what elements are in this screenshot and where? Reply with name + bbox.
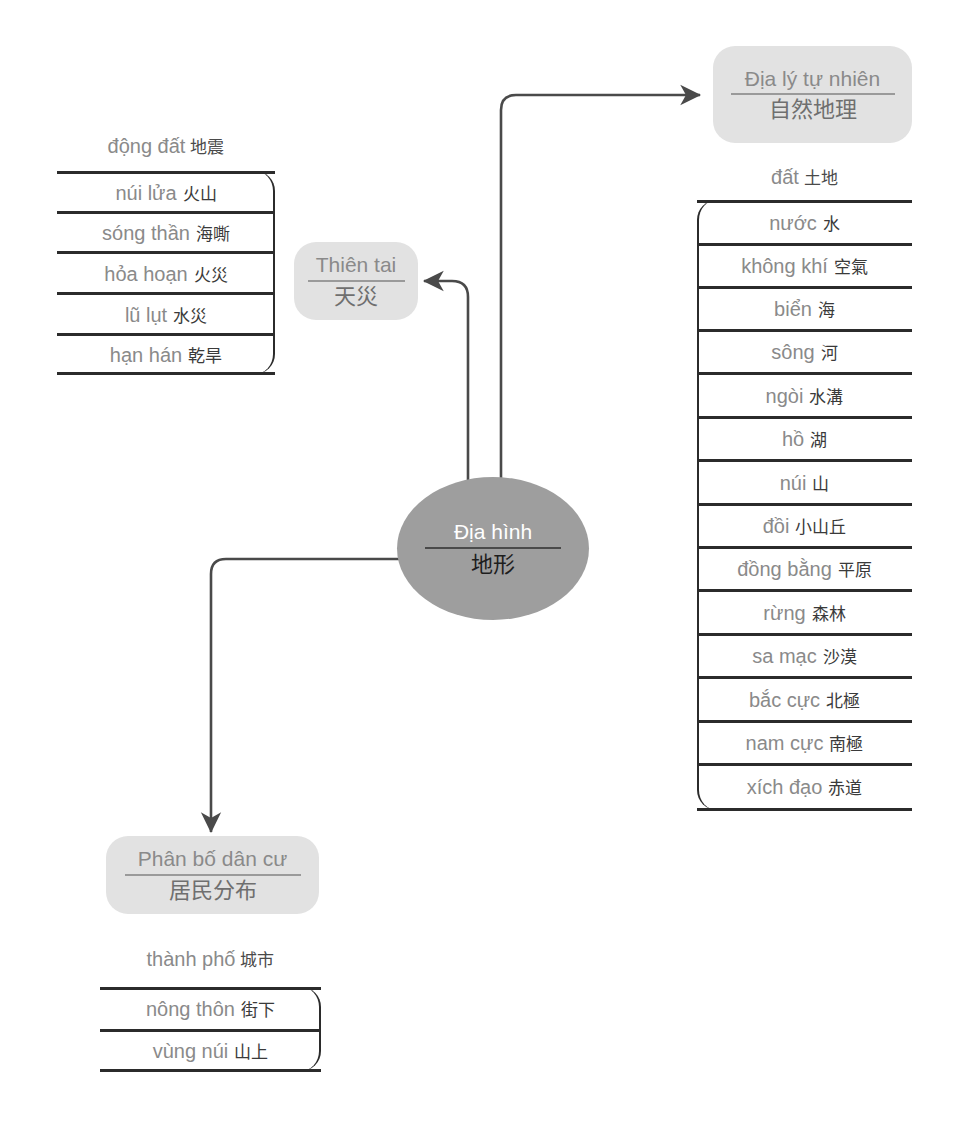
list-item-vi: bắc cực [749, 689, 820, 711]
list-item: nông thôn街下 [100, 996, 321, 1021]
list-item-zh: 河 [821, 343, 838, 363]
center-node-dia-hinh[interactable]: Địa hình 地形 [397, 477, 589, 620]
list-item-zh: 街下 [241, 1000, 275, 1020]
list-item-zh: 水溝 [809, 387, 843, 407]
list-item-vi: sóng thần [102, 222, 190, 244]
list-item: xích đạo赤道 [697, 774, 912, 799]
list-item: biển海 [697, 296, 912, 321]
list-item-vi: nước [769, 212, 817, 234]
node-thien-tai[interactable]: Thiên tai 天災 [294, 242, 418, 320]
connector-to-disaster [424, 281, 468, 481]
list-item: vùng núi山上 [100, 1038, 321, 1063]
center-node-zh-label: 地形 [471, 552, 515, 577]
list-item: không khí空氣 [697, 253, 912, 278]
list-item: ngòi水溝 [697, 383, 912, 408]
row-divider [697, 720, 912, 723]
node-disaster-zh-label: 天災 [334, 284, 378, 309]
node-dia-ly-tu-nhien[interactable]: Địa lý tự nhiên 自然地理 [713, 46, 912, 143]
node-nature-divider [731, 93, 895, 95]
list-item-zh: 乾旱 [188, 346, 222, 366]
list-item-vi: đồng bằng [737, 558, 832, 580]
list-item-vi: hỏa hoạn [104, 263, 187, 285]
row-divider [697, 372, 912, 375]
list-item-vi: sông [771, 341, 814, 363]
center-node-vi-label: Địa hình [454, 520, 532, 543]
list-item-zh: 水 [823, 214, 840, 234]
list-item: sa mạc沙漠 [697, 643, 912, 668]
list-item-zh: 北極 [826, 691, 860, 711]
list-item-zh: 水災 [173, 306, 207, 326]
row-divider [100, 1069, 321, 1072]
row-divider [57, 333, 275, 336]
node-nature-vi-label: Địa lý tự nhiên [741, 67, 884, 91]
list-item-zh: 沙漠 [823, 647, 857, 667]
list-item: đồi小山丘 [697, 513, 912, 538]
row-divider [697, 459, 912, 462]
node-population-vi-label: Phân bố dân cư [134, 847, 292, 871]
list-item-vi: biển [774, 298, 812, 320]
list-item-vi: đồi [763, 515, 790, 537]
list-item-zh: 山 [812, 474, 829, 494]
list-item-vi: hạn hán [110, 344, 182, 366]
row-divider [697, 763, 912, 766]
row-divider [57, 171, 275, 174]
list-head-nature-vi: đất [771, 166, 799, 188]
list-item-vi: ngòi [766, 385, 804, 407]
list-head-nature-zh: 土地 [804, 168, 838, 188]
list-item-vi: nông thôn [146, 998, 235, 1020]
row-divider [697, 808, 912, 811]
list-item: nước水 [697, 210, 912, 235]
list-item-vi: hồ [782, 428, 804, 450]
list-item-zh: 海嘶 [196, 224, 230, 244]
list-item-zh: 森林 [812, 604, 846, 624]
list-head-disaster-vi: động đất [108, 135, 186, 157]
list-item: núi山 [697, 470, 912, 495]
row-divider [697, 633, 912, 636]
node-disaster-vi-label: Thiên tai [312, 253, 401, 277]
list-head-nature: đất土地 [697, 164, 912, 189]
row-divider [697, 589, 912, 592]
list-head-disaster: động đất地震 [57, 133, 275, 158]
list-item-zh: 湖 [810, 430, 827, 450]
list-item: nam cực南極 [697, 730, 912, 755]
list-item: hỏa hoạn火災 [57, 261, 275, 286]
list-item-zh: 山上 [234, 1042, 268, 1062]
list-item: lũ lụt水災 [57, 302, 275, 327]
list-item-vi: xích đạo [747, 776, 823, 798]
row-divider [57, 372, 275, 375]
list-item-vi: sa mạc [752, 645, 816, 667]
list-item: hồ湖 [697, 426, 912, 451]
node-disaster-divider [308, 280, 405, 282]
list-item-zh: 南極 [829, 734, 863, 754]
list-item-zh: 火山 [183, 184, 217, 204]
row-divider [697, 286, 912, 289]
list-item: hạn hán乾旱 [57, 342, 275, 367]
row-divider [697, 546, 912, 549]
list-item-zh: 平原 [838, 560, 872, 580]
list-item-zh: 空氣 [834, 257, 868, 277]
list-item: núi lửa火山 [57, 180, 275, 205]
mindmap-canvas: Địa hình 地形 Địa lý tự nhiên 自然地理 Thiên t… [0, 0, 962, 1131]
node-population-divider [125, 874, 301, 876]
row-divider [697, 329, 912, 332]
row-divider [697, 503, 912, 506]
list-item-vi: núi [780, 472, 807, 494]
row-divider [57, 292, 275, 295]
list-head-population-zh: 城市 [240, 950, 274, 970]
row-divider [697, 200, 912, 203]
row-divider [697, 416, 912, 419]
list-item: sông河 [697, 339, 912, 364]
list-head-disaster-zh: 地震 [190, 137, 224, 157]
connector-to-population [211, 559, 400, 832]
list-item: đồng bằng平原 [697, 556, 912, 581]
list-item-vi: không khí [741, 255, 828, 277]
list-item-zh: 赤道 [828, 778, 862, 798]
list-item-zh: 小山丘 [795, 517, 846, 537]
list-item: rừng森林 [697, 600, 912, 625]
list-item-vi: nam cực [746, 732, 824, 754]
list-head-population-vi: thành phố [147, 948, 236, 970]
list-item-vi: vùng núi [153, 1040, 229, 1062]
node-phan-bo-dan-cu[interactable]: Phân bố dân cư 居民分布 [106, 836, 319, 914]
row-divider [100, 987, 321, 990]
row-divider [57, 251, 275, 254]
